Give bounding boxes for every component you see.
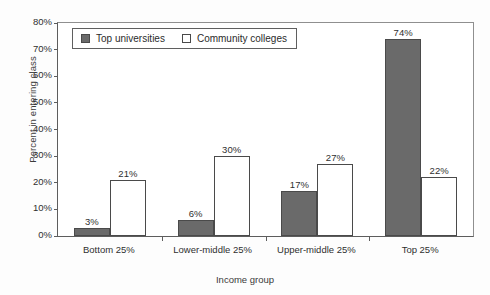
legend-entry-label: Top universities (96, 33, 165, 44)
x-axis-category-label: Lower-middle 25% (161, 244, 265, 255)
bar-chart-figure: Percent in entering class 80%70%60%50%40… (0, 0, 490, 295)
bar-group: 74%22% (369, 23, 473, 236)
bar-value-label: 22% (430, 165, 449, 176)
bar[interactable]: 22% (421, 177, 457, 236)
legend-entry[interactable]: Community colleges (182, 33, 287, 44)
bar[interactable]: 21% (110, 180, 146, 236)
y-axis-tick-label: 80% (33, 16, 52, 27)
x-axis-tick-mark (369, 236, 370, 241)
bar-value-label: 6% (189, 208, 203, 219)
y-axis-tick-label: 0% (38, 229, 52, 240)
hollow-square-icon (182, 34, 191, 43)
bar[interactable]: 27% (317, 164, 353, 236)
filled-square-icon (81, 34, 90, 43)
chart-legend: Top universitiesCommunity colleges (72, 28, 297, 49)
bar[interactable]: 74% (385, 39, 421, 236)
x-axis-tick-mark (162, 236, 163, 241)
bar-group: 6%30% (162, 23, 266, 236)
bar-group: 17%27% (266, 23, 370, 236)
x-axis-category-label: Bottom 25% (57, 244, 161, 255)
bar-value-label: 27% (326, 152, 345, 163)
bar[interactable]: 17% (281, 191, 317, 236)
bar-group: 3%21% (58, 23, 162, 236)
x-axis-title: Income group (0, 274, 490, 285)
bar-value-label: 21% (118, 168, 137, 179)
bar-slot: 17% (281, 23, 317, 236)
y-axis-tick-label: 40% (33, 123, 52, 134)
bar-slot: 27% (317, 23, 353, 236)
y-axis-tick-label: 10% (33, 202, 52, 213)
bar-slot: 3% (74, 23, 110, 236)
bar-slot: 22% (421, 23, 457, 236)
bar-slot: 21% (110, 23, 146, 236)
x-axis-category-label: Top 25% (368, 244, 472, 255)
bar-slot: 6% (178, 23, 214, 236)
legend-entry-label: Community colleges (197, 33, 287, 44)
bar-value-label: 30% (222, 144, 241, 155)
bar-group-bars: 17%27% (266, 23, 370, 236)
bar[interactable]: 3% (74, 228, 110, 236)
y-axis-tick-label: 70% (33, 43, 52, 54)
bar-value-label: 3% (85, 216, 99, 227)
legend-entry[interactable]: Top universities (81, 33, 165, 44)
x-axis-category-label: Upper-middle 25% (265, 244, 369, 255)
bar-value-label: 17% (290, 179, 309, 190)
x-axis-tick-mark (266, 236, 267, 241)
plot-area: 80%70%60%50%40%30%20%10%0% 3%21%6%30%17%… (57, 22, 474, 237)
bar[interactable]: 6% (178, 220, 214, 236)
bar-slot: 30% (214, 23, 250, 236)
bar-value-label: 74% (394, 27, 413, 38)
y-axis-tick-label: 20% (33, 176, 52, 187)
y-axis-tick-label: 60% (33, 69, 52, 80)
y-axis-tick-label: 50% (33, 96, 52, 107)
bar-group-bars: 6%30% (162, 23, 266, 236)
bar-group-bars: 3%21% (58, 23, 162, 236)
bar-group-bars: 74%22% (369, 23, 473, 236)
bar-slot: 74% (385, 23, 421, 236)
y-axis-tick-label: 30% (33, 149, 52, 160)
bar[interactable]: 30% (214, 156, 250, 236)
